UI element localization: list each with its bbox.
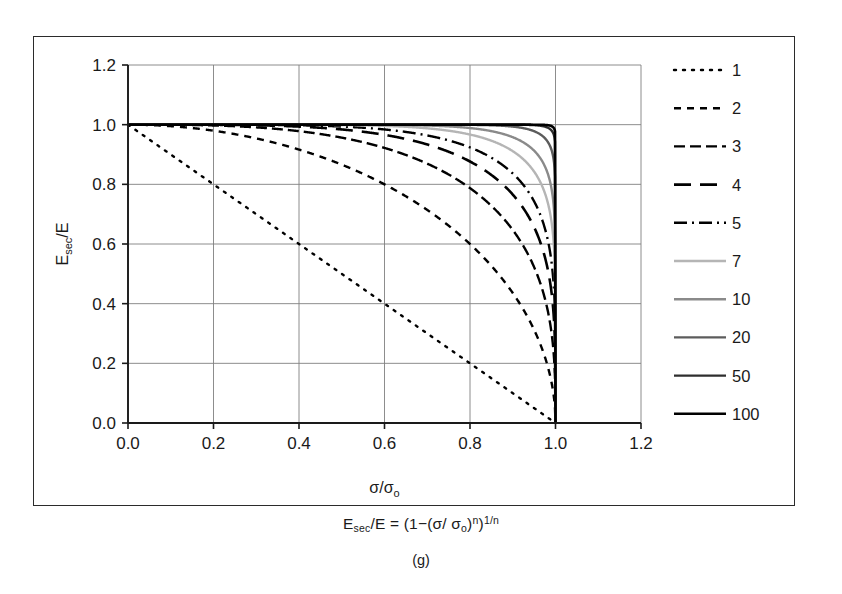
equation-caption: Esec/E = (1−(σ/ σo)n)1/n <box>0 514 842 534</box>
curve-n-1 <box>128 125 556 423</box>
legend-label-2: 2 <box>732 99 741 117</box>
panel-caption: (g) <box>0 552 842 568</box>
legend-label-20: 20 <box>732 328 750 346</box>
y-tick-label: 0.8 <box>92 175 116 194</box>
legend-label-7: 7 <box>732 252 741 270</box>
x-tick-label: 0.2 <box>202 434 226 453</box>
y-tick-label: 1.2 <box>92 56 116 75</box>
legend-label-4: 4 <box>732 176 741 194</box>
y-tick-labels: 0.00.20.40.60.81.01.2 <box>92 56 116 433</box>
equation-lhs-sub: sec <box>353 522 370 534</box>
chart-legend: 123457102050100 <box>674 61 760 423</box>
axes <box>122 65 641 429</box>
equation-exponent-one-over-n: 1/n <box>484 514 499 526</box>
y-tick-label: 0.4 <box>92 295 116 314</box>
y-tick-label: 0.2 <box>92 354 116 373</box>
x-tick-label: 0.0 <box>116 434 140 453</box>
x-tick-label: 1.2 <box>629 434 653 453</box>
legend-label-50: 50 <box>732 367 750 385</box>
y-axis-title: Esec/E <box>54 223 74 266</box>
legend-label-10: 10 <box>732 290 750 308</box>
x-tick-label: 0.6 <box>373 434 397 453</box>
figure-frame: 0.00.20.40.60.81.01.2 0.00.20.40.60.81.0… <box>33 36 795 506</box>
plot-curves <box>128 125 556 423</box>
x-axis-title: σ/σo <box>369 479 399 499</box>
x-tick-label: 1.0 <box>544 434 568 453</box>
legend-label-100: 100 <box>732 405 760 423</box>
equation-lhs-rest: /E = (1−(σ/ σ <box>370 515 461 532</box>
y-tick-label: 1.0 <box>92 116 116 135</box>
x-tick-label: 0.4 <box>287 434 311 453</box>
y-tick-label: 0.0 <box>92 414 116 433</box>
legend-label-5: 5 <box>732 214 741 232</box>
x-tick-labels: 0.00.20.40.60.81.01.2 <box>116 434 653 453</box>
x-tick-label: 0.8 <box>458 434 482 453</box>
equation-lhs-base: E <box>343 515 354 532</box>
legend-label-1: 1 <box>732 61 741 79</box>
legend-label-3: 3 <box>732 137 741 155</box>
grid-lines <box>128 65 641 423</box>
chart-canvas: 0.00.20.40.60.81.01.2 0.00.20.40.60.81.0… <box>34 37 796 507</box>
y-tick-label: 0.6 <box>92 235 116 254</box>
